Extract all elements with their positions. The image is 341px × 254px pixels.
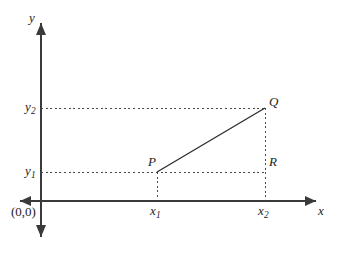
y2-tick-label: y2: [25, 100, 36, 116]
x-axis-label: x: [318, 204, 324, 217]
triangle-group: [157, 108, 265, 172]
y1-tick-base: y: [25, 163, 31, 178]
coordinate-plane-figure: y x (0,0) y2 y1 x1 x2 P Q R: [0, 0, 341, 254]
x2-tick-base: x: [258, 203, 264, 218]
x1-tick-base: x: [150, 203, 156, 218]
y-axis-up-arrow-icon: [36, 23, 46, 35]
x-axis-right-arrow-icon: [305, 196, 316, 206]
x1-tick-label: x1: [150, 204, 161, 220]
point-q-label: Q: [269, 95, 278, 108]
y1-tick-label: y1: [25, 164, 36, 180]
segment-pq: [157, 108, 265, 172]
figure-canvas: [0, 0, 341, 254]
point-r-label: R: [269, 155, 277, 168]
origin-label: (0,0): [11, 205, 36, 218]
point-p-label: P: [148, 155, 156, 168]
x1-tick-sub: 1: [156, 210, 161, 220]
y1-tick-sub: 1: [31, 170, 36, 180]
y-axis-label: y: [29, 11, 35, 24]
axes-group: [20, 23, 316, 237]
x2-tick-sub: 2: [264, 210, 269, 220]
y-axis-down-arrow-icon: [36, 225, 46, 237]
y2-tick-sub: 2: [31, 106, 36, 116]
y2-tick-base: y: [25, 99, 31, 114]
x2-tick-label: x2: [258, 204, 269, 220]
